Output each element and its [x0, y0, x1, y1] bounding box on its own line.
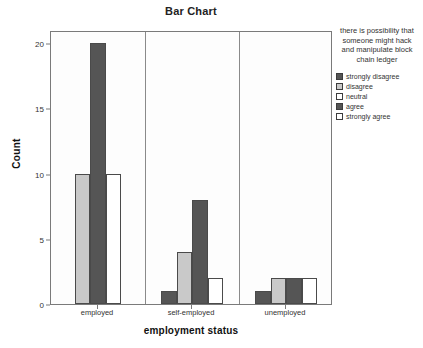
legend-swatch-icon: [336, 113, 343, 120]
legend-item-label: strongly agree: [346, 112, 390, 121]
x-axis-title: employment status: [50, 325, 332, 336]
bar: [161, 291, 177, 304]
y-tick-label: 10: [18, 170, 44, 179]
bar: [75, 174, 91, 304]
bar: [192, 200, 208, 304]
y-tick-label: 15: [18, 105, 44, 114]
legend-item-label: neutral: [346, 92, 367, 101]
y-tick-label: 0: [18, 301, 44, 310]
legend-swatch-icon: [336, 103, 343, 110]
legend-item[interactable]: neutral: [336, 92, 422, 102]
legend-item-label: agree: [346, 102, 364, 111]
legend-item[interactable]: strongly agree: [336, 112, 422, 122]
bar: [302, 278, 318, 304]
bar: [106, 174, 122, 304]
bar: [208, 278, 224, 304]
legend-item[interactable]: strongly disagree: [336, 72, 422, 82]
y-tick-label: 5: [18, 235, 44, 244]
x-tick-label: self-employed: [168, 308, 215, 317]
bar: [90, 43, 106, 304]
chart-title: Bar Chart: [50, 5, 332, 17]
legend-swatch-icon: [336, 93, 343, 100]
bar: [286, 278, 302, 304]
legend-swatch-icon: [336, 73, 343, 80]
group-divider: [145, 32, 146, 304]
bar: [271, 278, 287, 304]
y-tick-label: 20: [18, 40, 44, 49]
legend-swatch-icon: [336, 83, 343, 90]
x-tick-label: unemployed: [265, 308, 306, 317]
legend: there is possibility that someone might …: [336, 26, 422, 122]
bar: [255, 291, 271, 304]
legend-item-label: strongly disagree: [346, 72, 399, 81]
legend-item-list: strongly disagreedisagreeneutralagreestr…: [336, 72, 422, 122]
legend-item[interactable]: agree: [336, 102, 422, 112]
legend-item-label: disagree: [346, 82, 373, 91]
bar-chart-figure: Bar Chart Count 05101520 employedself-em…: [0, 0, 423, 348]
x-tick-label: employed: [81, 308, 114, 317]
plot-area: [50, 31, 332, 305]
legend-title: there is possibility that someone might …: [336, 26, 418, 64]
group-divider: [239, 32, 240, 304]
bar: [177, 252, 193, 304]
legend-item[interactable]: disagree: [336, 82, 422, 92]
plot-inner: [51, 32, 331, 304]
